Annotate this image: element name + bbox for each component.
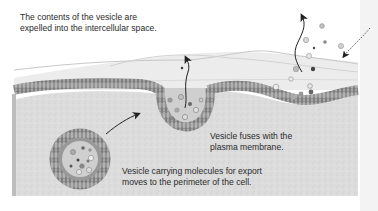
label-line: Vesicle fuses with the — [210, 131, 292, 142]
label-line: expelled into the intercellular space. — [20, 23, 157, 34]
label-line: Vesicle carrying molecules for export — [122, 166, 262, 177]
label-line: The contents of the vesicle are — [20, 12, 157, 23]
label-vesicle-fuses: Vesicle fuses with the plasma membrane. — [210, 131, 292, 153]
label-vesicle-carrying: Vesicle carrying molecules for export mo… — [122, 166, 262, 188]
cell-edge — [12, 94, 16, 196]
exocytosis-diagram: The contents of the vesicle are expelled… — [0, 0, 378, 211]
label-line: plasma membrane. — [210, 142, 292, 153]
label-contents-expelled: The contents of the vesicle are expelled… — [20, 12, 157, 34]
label-line: moves to the perimeter of the cell. — [122, 177, 262, 188]
